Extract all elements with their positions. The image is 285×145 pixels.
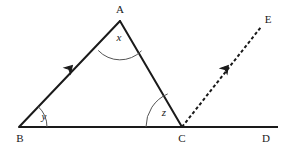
arrow-marker-ce-icon: [221, 63, 232, 74]
ray-ce: [182, 27, 261, 127]
vertex-label-e: E: [265, 14, 272, 25]
angle-label-x: x: [117, 32, 122, 43]
side-ac: [120, 21, 182, 127]
angle-arc-x: [98, 50, 141, 59]
angle-label-z: z: [162, 107, 166, 118]
side-ba: [19, 21, 120, 127]
vertex-label-a: A: [116, 4, 124, 15]
vertex-label-d: D: [262, 133, 270, 144]
geometry-canvas: [0, 0, 285, 145]
geometry-diagram: A B C D E x y z: [0, 0, 285, 145]
angle-label-y: y: [42, 111, 47, 122]
vertex-label-b: B: [16, 133, 23, 144]
vertex-label-c: C: [178, 133, 185, 144]
